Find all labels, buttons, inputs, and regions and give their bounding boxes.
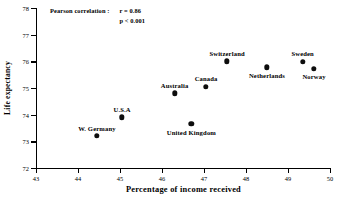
x-tick-mark: [288, 168, 289, 173]
y-tick-label: 73: [22, 138, 29, 145]
data-point-label: Switzerland: [209, 50, 244, 57]
y-axis-title-container: Life expectancy: [0, 8, 14, 168]
x-tick-label: 48: [243, 175, 250, 182]
data-point-label: Canada: [195, 75, 218, 82]
x-tick-mark: [204, 168, 205, 173]
x-tick-mark: [330, 168, 331, 173]
data-point-label: United Kingdom: [167, 129, 216, 136]
x-tick-label: 49: [285, 175, 292, 182]
y-axis-title: Life expectancy: [3, 61, 12, 115]
y-tick-label: 72: [22, 165, 29, 172]
data-point-label: Australia: [161, 82, 189, 89]
y-tick-label: 78: [22, 5, 29, 12]
y-tick-label: 75: [22, 85, 29, 92]
x-tick-label: 44: [75, 175, 82, 182]
scatter-plot-figure: Life expectancy 72737475767778 434445464…: [0, 0, 339, 204]
y-tick-label: 76: [22, 58, 29, 65]
data-point-label: U.S.A: [113, 106, 130, 113]
x-tick-mark: [120, 168, 121, 173]
x-tick-label: 46: [159, 175, 166, 182]
x-tick-label: 43: [33, 175, 40, 182]
x-tick-mark: [246, 168, 247, 173]
data-point-label: Norway: [302, 73, 325, 80]
annotation-r-value: r = 0.86: [119, 6, 145, 16]
annotation-p-value: p < 0.001: [119, 16, 145, 26]
data-point-label: Sweden: [291, 50, 314, 57]
x-tick-label: 45: [117, 175, 124, 182]
data-point-label: W. Germany: [78, 125, 116, 132]
x-axis-title: Percentage of income received: [36, 185, 331, 194]
x-axis-line: [36, 168, 331, 169]
x-tick-mark: [78, 168, 79, 173]
y-tick-label: 74: [22, 111, 29, 118]
y-tick-label: 77: [22, 31, 29, 38]
correlation-annotation: Pearson correlation : r = 0.86 p < 0.001: [50, 6, 145, 25]
data-point-label: Netherlands: [249, 72, 285, 79]
x-tick-mark: [162, 168, 163, 173]
annotation-label: Pearson correlation :: [50, 6, 109, 25]
x-tick-mark: [36, 168, 37, 173]
x-tick-label: 50: [327, 175, 334, 182]
x-tick-label: 47: [201, 175, 208, 182]
